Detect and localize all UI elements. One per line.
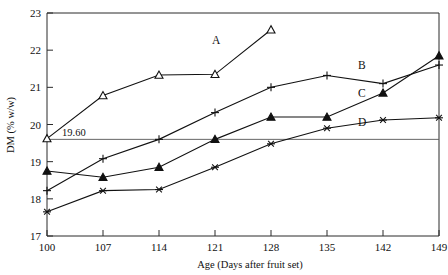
x-tick-label: 121 xyxy=(207,241,224,253)
series-label-b: B xyxy=(358,59,366,71)
chart-container: 17181920212223 100107114121128135142149 … xyxy=(0,0,448,275)
y-tick-label: 23 xyxy=(30,7,42,19)
data-point-marker xyxy=(43,167,51,174)
y-tick-label: 21 xyxy=(30,81,41,93)
y-tick-label: 20 xyxy=(30,119,42,131)
data-point-marker xyxy=(379,89,387,96)
data-point-marker xyxy=(435,52,443,59)
x-tick-label: 142 xyxy=(375,241,392,253)
x-tick-label: 100 xyxy=(39,241,56,253)
data-point-marker xyxy=(267,26,275,33)
axis-frame xyxy=(47,13,439,236)
series-label-a: A xyxy=(212,34,221,46)
series-label-d: D xyxy=(358,116,366,128)
x-tick-label: 114 xyxy=(151,241,168,253)
data-point-marker xyxy=(99,92,107,99)
y-tick-label: 22 xyxy=(30,44,41,56)
y-axis-tick-labels: 17181920212223 xyxy=(30,7,53,242)
x-tick-label: 135 xyxy=(319,241,336,253)
series-plot-area xyxy=(43,26,443,215)
data-point-marker xyxy=(155,163,163,170)
x-tick-label: 107 xyxy=(95,241,112,253)
x-axis-tick-labels: 100107114121128135142149 xyxy=(39,230,448,253)
data-point-marker xyxy=(43,135,51,142)
series-path xyxy=(47,30,271,139)
line-chart: 17181920212223 100107114121128135142149 … xyxy=(0,0,448,275)
x-tick-label: 149 xyxy=(431,241,448,253)
series-label-c: C xyxy=(358,87,366,99)
x-axis-title: Age (Days after fruit set) xyxy=(197,259,303,271)
series-d xyxy=(43,115,443,215)
plot-frame xyxy=(47,13,439,236)
x-tick-label: 128 xyxy=(263,241,280,253)
y-tick-label: 18 xyxy=(30,193,42,205)
series-path xyxy=(47,118,439,212)
reference-line-label: 19.60 xyxy=(62,127,86,138)
y-axis-title: DM (% w/w) xyxy=(5,97,17,153)
series-a xyxy=(43,26,275,142)
y-tick-label: 19 xyxy=(30,156,42,168)
